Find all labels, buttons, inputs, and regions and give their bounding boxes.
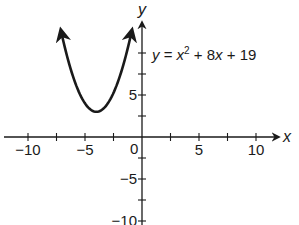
tick-labels: −10−55105−5−10	[15, 86, 264, 225]
origin-label: 0	[130, 140, 138, 157]
y-tick-label: −5	[120, 170, 137, 187]
y-tick-label: 5	[129, 86, 137, 103]
x-axis-label: x	[282, 128, 292, 145]
y-axis-label: y	[137, 1, 147, 18]
x-tick-label: −10	[15, 141, 40, 158]
parabola-path	[61, 31, 132, 112]
parabola-graph: −10−55105−5−10 x y 0 y = x2 + 8x + 19	[0, 0, 299, 225]
x-tick-label: −5	[76, 141, 93, 158]
x-tick-label: 5	[195, 141, 203, 158]
x-tick-label: 10	[248, 141, 265, 158]
y-tick-label: −10	[112, 212, 137, 225]
parabola-curve	[61, 31, 132, 112]
equation-label: y = x2 + 8x + 19	[151, 45, 256, 63]
